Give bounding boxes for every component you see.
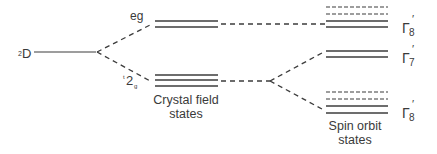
gamma8-lower-subscript: 8 bbox=[409, 112, 415, 123]
eg-level-group: eg bbox=[130, 9, 218, 27]
gamma7-group: Γ 7 ′ bbox=[326, 43, 415, 68]
spin-orbit-caption-line1: Spin orbit bbox=[329, 119, 382, 133]
term-label: D bbox=[22, 46, 31, 61]
free-ion-term: 2 D bbox=[18, 46, 96, 61]
t2g-label: 2 bbox=[126, 73, 133, 88]
spin-orbit-connectors bbox=[221, 24, 325, 109]
energy-level-diagram: 2 D eg t 2 g Crystal field states Γ bbox=[0, 0, 437, 154]
crystal-field-caption-line1: Crystal field bbox=[153, 93, 218, 107]
gamma8-upper-prime: ′ bbox=[412, 13, 414, 25]
t2g-subscript: g bbox=[134, 83, 137, 89]
t2g-superscript: t bbox=[123, 74, 125, 80]
gamma7-prime: ′ bbox=[412, 43, 414, 55]
crystal-field-caption-line2: states bbox=[169, 107, 202, 121]
branch-to-gamma7 bbox=[270, 53, 322, 81]
gamma8-upper-subscript: 8 bbox=[409, 27, 415, 38]
gamma8-lower-prime: ′ bbox=[412, 98, 414, 110]
eg-label: eg bbox=[130, 9, 143, 23]
gamma7-subscript: 7 bbox=[409, 57, 415, 68]
t2g-level-group: t 2 g bbox=[123, 73, 218, 89]
spin-orbit-caption-line2: states bbox=[338, 133, 371, 147]
gamma8-upper-group: Γ 8 ′ bbox=[326, 7, 415, 38]
branch-to-gamma8-lower bbox=[270, 81, 322, 109]
branch-to-eg bbox=[97, 24, 152, 52]
